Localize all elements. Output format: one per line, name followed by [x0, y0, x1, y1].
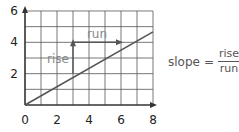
grid [25, 11, 153, 105]
x-tick-label: 8 [149, 113, 157, 127]
x-tick-label: 4 [85, 113, 93, 127]
fraction-numerator: rise [218, 48, 239, 62]
y-axis-arrow-icon [22, 6, 28, 13]
tick-labels: 02468246 [10, 4, 156, 127]
x-tick-label: 2 [53, 113, 61, 127]
y-tick-label: 6 [10, 4, 18, 18]
y-tick-label: 2 [10, 67, 18, 81]
run-arrowhead-icon [116, 39, 123, 45]
fraction: rise run [218, 48, 239, 75]
fraction-denominator: run [220, 62, 238, 75]
formula-equals: = [204, 55, 214, 69]
formula-lhs: slope [168, 55, 200, 69]
x-tick-label: 0 [21, 113, 29, 127]
run-label: run [87, 27, 107, 41]
slope-graph: riserun 02468246 [0, 0, 160, 132]
slope-formula: slope = rise run [168, 48, 239, 75]
x-axis-arrow-icon [150, 102, 157, 108]
rise-run-annotations: riserun [47, 27, 123, 73]
x-tick-label: 6 [117, 113, 125, 127]
rise-label: rise [47, 52, 69, 66]
y-tick-label: 4 [10, 35, 18, 49]
